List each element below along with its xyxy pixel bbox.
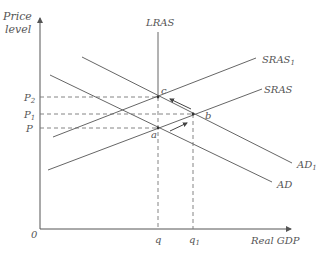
point-c xyxy=(157,96,160,99)
point-a-label: a xyxy=(151,129,157,140)
arrow-a-to-b xyxy=(170,123,187,131)
sras-label: SRAS xyxy=(264,84,293,95)
p2-label: P2 xyxy=(23,92,36,105)
arrow-b-to-c xyxy=(170,99,191,109)
point-b xyxy=(192,113,195,116)
point-b-label: b xyxy=(205,110,211,121)
origin-label: 0 xyxy=(31,229,38,240)
ad1-curve xyxy=(82,57,292,163)
ad-label: AD xyxy=(276,179,292,190)
p-label: P xyxy=(25,123,33,134)
q1-label: q1 xyxy=(189,234,200,247)
lras-label: LRAS xyxy=(145,17,174,28)
sras1-label: SRAS1 xyxy=(262,54,295,67)
point-a xyxy=(157,127,160,130)
ad-as-diagram: Price level LRAS SRAS1 SRAS AD1 AD P2 P1… xyxy=(0,0,331,253)
y-axis-label-line1: Price xyxy=(2,10,32,23)
point-c-label: c xyxy=(161,85,167,96)
x-axis-label: Real GDP xyxy=(250,235,300,246)
q-label: q xyxy=(155,234,161,245)
y-axis-label-line2: level xyxy=(5,23,32,36)
ad1-label: AD1 xyxy=(296,159,317,172)
p1-label: P1 xyxy=(23,109,35,122)
